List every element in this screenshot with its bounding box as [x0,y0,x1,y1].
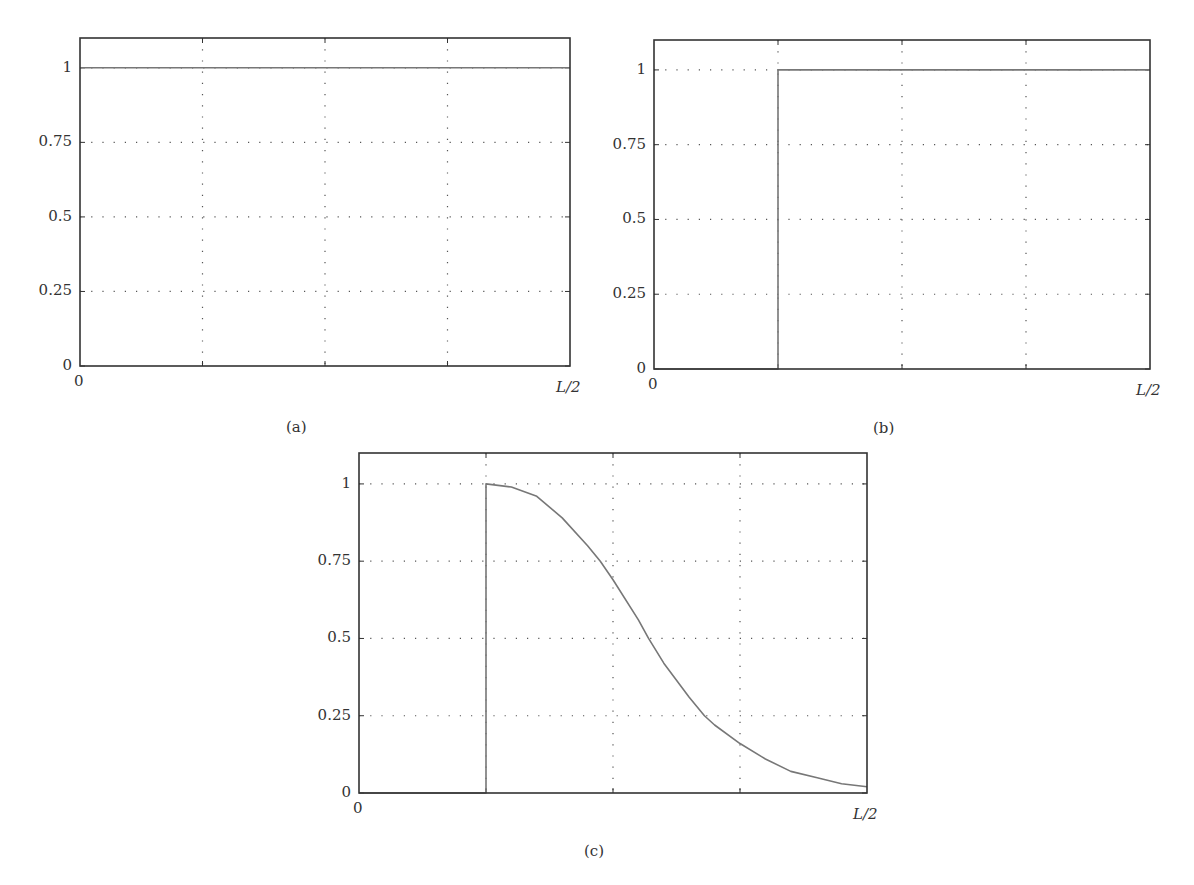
x-tick-label-end: L/2 [853,807,878,822]
y-tick-label: 0.25 [606,286,646,301]
y-tick-label: 0.5 [606,211,646,226]
x-tick-label-start: 0 [648,377,658,392]
x-tick-label-start: 0 [74,374,84,389]
y-tick-label: 0.5 [311,630,351,645]
y-tick-label: 0.5 [32,209,72,224]
y-tick-label: 1 [606,62,646,77]
chart-c-caption: (c) [584,842,604,860]
x-tick-label-end: L/2 [556,380,581,395]
chart-a: 00.250.50.7510L/2 [80,38,570,366]
y-tick-label: 0.25 [311,708,351,723]
y-tick-label: 1 [311,476,351,491]
y-tick-label: 0.25 [32,283,72,298]
chart-a-plot [80,38,570,366]
x-tick-label-start: 0 [353,801,363,816]
y-tick-label: 0 [311,785,351,800]
x-tick-label-end: L/2 [1136,383,1161,398]
chart-b-caption: (b) [873,419,894,437]
chart-c: 00.250.50.7510L/2 [359,453,867,793]
plot-frame [359,453,867,793]
plot-frame [80,38,570,366]
y-tick-label: 0 [32,358,72,373]
chart-a-caption: (a) [286,418,307,436]
y-tick-label: 0.75 [311,553,351,568]
y-tick-label: 0 [606,361,646,376]
y-tick-label: 1 [32,60,72,75]
y-tick-label: 0.75 [32,134,72,149]
chart-c-plot [359,453,867,793]
plot-frame [654,40,1150,369]
y-tick-label: 0.75 [606,137,646,152]
chart-b: 00.250.50.7510L/2 [654,40,1150,369]
data-line-profile [359,484,867,793]
chart-b-plot [654,40,1150,369]
